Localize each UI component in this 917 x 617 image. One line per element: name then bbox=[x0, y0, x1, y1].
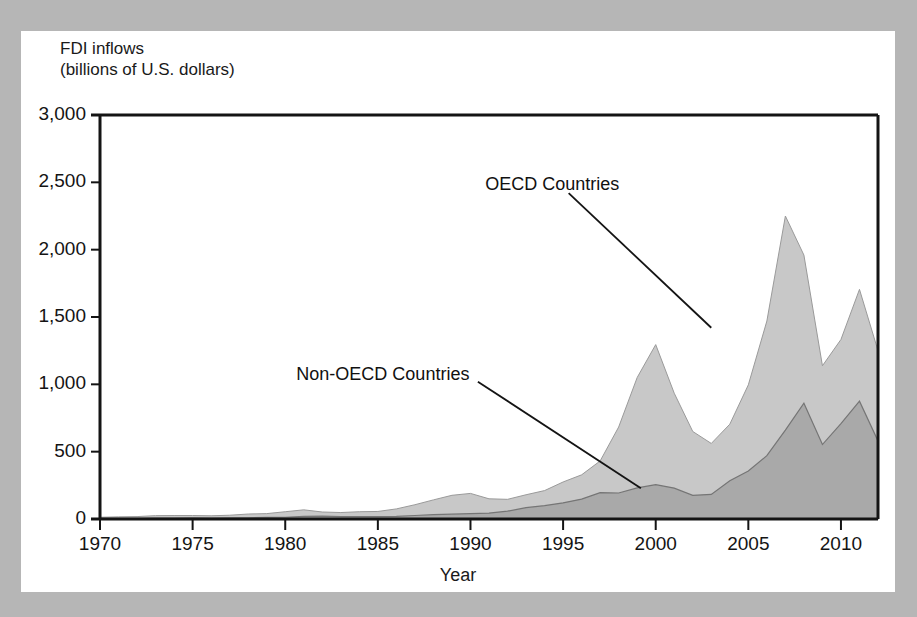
x-tick-label: 1975 bbox=[163, 533, 223, 555]
x-tick-label: 2010 bbox=[811, 533, 871, 555]
x-tick-marks bbox=[100, 519, 841, 530]
x-tick-label: 1985 bbox=[348, 533, 408, 555]
y-tick-label: 500 bbox=[12, 440, 86, 462]
chart-svg bbox=[21, 31, 895, 592]
x-tick-label: 1990 bbox=[440, 533, 500, 555]
x-tick-label: 2005 bbox=[718, 533, 778, 555]
y-tick-label: 2,500 bbox=[12, 170, 86, 192]
x-axis-title: Year bbox=[21, 565, 895, 586]
annotation-label-oecd: OECD Countries bbox=[485, 174, 619, 195]
y-tick-label: 1,000 bbox=[12, 372, 86, 394]
x-tick-label: 2000 bbox=[626, 533, 686, 555]
x-tick-label: 1980 bbox=[255, 533, 315, 555]
y-tick-label: 0 bbox=[12, 507, 86, 529]
annotation-label-non-oecd: Non-OECD Countries bbox=[296, 364, 469, 385]
plot-area: 05001,0001,5002,0002,5003,000 1970197519… bbox=[21, 31, 895, 592]
figure-root: FDI inflows(billions of U.S. dollars) 05… bbox=[0, 0, 917, 617]
stacked-areas-group bbox=[100, 216, 878, 519]
x-tick-label: 1995 bbox=[533, 533, 593, 555]
x-tick-label: 1970 bbox=[70, 533, 130, 555]
y-tick-label: 1,500 bbox=[12, 305, 86, 327]
chart-card: FDI inflows(billions of U.S. dollars) 05… bbox=[21, 31, 895, 592]
y-tick-label: 2,000 bbox=[12, 238, 86, 260]
y-tick-label: 3,000 bbox=[12, 103, 86, 125]
annotation-leader-oecd bbox=[569, 193, 712, 328]
